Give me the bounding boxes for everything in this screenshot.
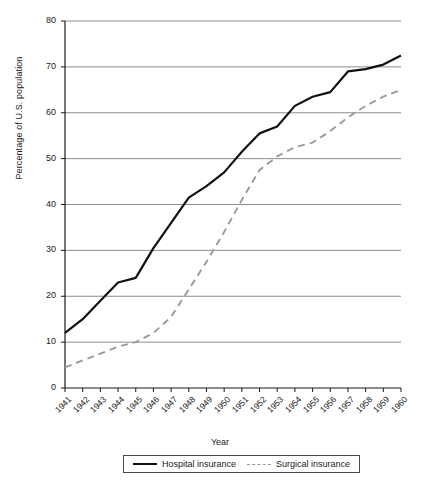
legend-label-hospital-insurance: Hospital insurance	[162, 459, 236, 469]
legend-swatch-dashed-line	[247, 464, 271, 465]
legend-swatch-solid-line	[133, 463, 157, 465]
x-axis-title: Year	[0, 437, 440, 447]
legend-item-hospital-insurance: Hospital insurance	[133, 459, 236, 469]
chart-container: Percentage of U.S. population 0102030405…	[0, 0, 440, 489]
chart-legend: Hospital insurance Surgical insurance	[123, 455, 360, 473]
x-axis-tick-labels: 1941194219431944194519461947194819491950…	[0, 0, 440, 489]
legend-item-surgical-insurance: Surgical insurance	[247, 459, 350, 469]
legend-label-surgical-insurance: Surgical insurance	[276, 459, 350, 469]
